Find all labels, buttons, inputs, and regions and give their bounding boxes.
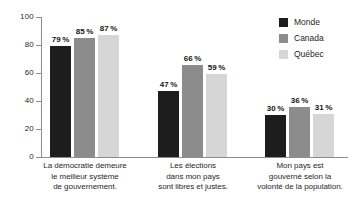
bar-value-label: 30 % (267, 104, 285, 113)
category-label: Les électionsdans mon payssont libres et… (137, 161, 249, 193)
bar[interactable] (206, 74, 227, 157)
y-axis-tick-label: 20 (0, 125, 34, 133)
bar[interactable] (313, 114, 334, 157)
category-label: La démocratie demeurele meilleur système… (22, 161, 148, 193)
category-label-line: La démocratie demeure (22, 161, 148, 172)
category-label-line: le meilleur système (22, 172, 148, 183)
legend-item-label: Québec (294, 50, 324, 59)
chart-legend: MondeCanadaQuébec (279, 15, 324, 63)
y-axis-tick-label: 100 (0, 13, 34, 21)
category-label-line: volonté de la population. (237, 182, 361, 193)
bar-chart: 100806040200 79 %85 %87 %47 %66 %59 %30 … (0, 0, 361, 199)
bar-group: 47 %66 %59 % (158, 17, 227, 157)
bar[interactable] (158, 91, 179, 157)
bar-slot: 79 % (50, 17, 71, 157)
category-label-line: sont libres et justes. (137, 182, 249, 193)
bar-value-label: 47 % (160, 80, 178, 89)
legend-item[interactable]: Québec (279, 47, 324, 62)
bar-slot: 87 % (98, 17, 119, 157)
category-label-line: Les élections (137, 161, 249, 172)
y-axis-tick-mark (36, 157, 42, 158)
bar-value-label: 85 % (76, 27, 94, 36)
legend-color-swatch (279, 50, 288, 59)
bar-slot: 47 % (158, 17, 179, 157)
legend-item[interactable]: Canada (279, 31, 324, 46)
bar[interactable] (182, 65, 203, 157)
category-label-line: gouverné selon la (237, 172, 361, 183)
bar-slot: 66 % (182, 17, 203, 157)
bar-slot: 59 % (206, 17, 227, 157)
y-axis-tick-label: 40 (0, 97, 34, 105)
bar-value-label: 59 % (208, 63, 226, 72)
bar-value-label: 31 % (315, 103, 333, 112)
y-axis-tick-label: 0 (0, 153, 34, 161)
y-axis-tick-label: 80 (0, 41, 34, 49)
bar-value-label: 36 % (291, 96, 309, 105)
y-axis-tick-label: 60 (0, 69, 34, 77)
legend-color-swatch (279, 18, 288, 27)
bar[interactable] (265, 115, 286, 157)
category-label-line: de gouvernement. (22, 182, 148, 193)
category-label-line: dans mon pays (137, 172, 249, 183)
bar[interactable] (289, 107, 310, 157)
legend-item[interactable]: Monde (279, 15, 324, 30)
legend-item-label: Canada (294, 34, 324, 43)
category-label: Mon pays estgouverné selon lavolonté de … (237, 161, 361, 193)
bar-group: 79 %85 %87 % (50, 17, 119, 157)
bar-value-label: 87 % (100, 24, 118, 33)
bar[interactable] (98, 35, 119, 157)
bar-slot: 85 % (74, 17, 95, 157)
bar[interactable] (74, 38, 95, 157)
x-axis-line (41, 157, 348, 158)
legend-item-label: Monde (294, 18, 320, 27)
bar-value-label: 66 % (184, 54, 202, 63)
category-label-line: Mon pays est (237, 161, 361, 172)
bar[interactable] (50, 46, 71, 157)
legend-color-swatch (279, 34, 288, 43)
bar-value-label: 79 % (52, 35, 70, 44)
